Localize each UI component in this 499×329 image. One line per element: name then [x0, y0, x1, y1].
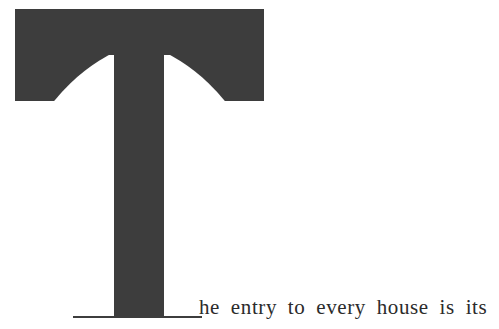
drop-cap-letter-t: [0, 0, 280, 329]
drop-cap-foot-serif: [73, 316, 202, 318]
document-page: he entry to every house is its: [0, 0, 499, 329]
paragraph-continuation-text: he entry to every house is its: [199, 296, 499, 318]
drop-cap-stem: [114, 9, 164, 318]
